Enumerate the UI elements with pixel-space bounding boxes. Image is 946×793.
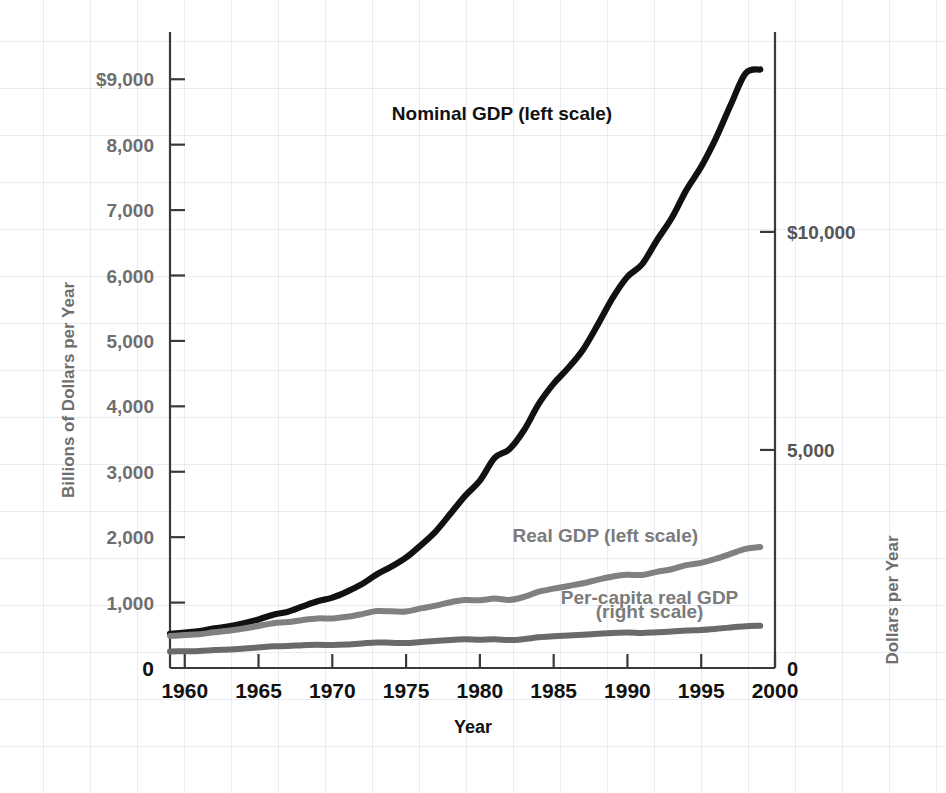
left-axis-title: Billions of Dollars per Year <box>59 282 78 498</box>
right-axis-tick-labels: 05,000$10,000 <box>787 222 856 680</box>
x-tick-label: 1975 <box>383 679 430 702</box>
right-axis-tick-marks <box>760 232 775 450</box>
x-tick-label: 1960 <box>161 679 208 702</box>
annotation-nominal-gdp: Nominal GDP (left scale) <box>392 103 612 124</box>
series-lines <box>170 69 760 651</box>
left-axis-tick-marks <box>170 79 185 602</box>
left-tick-label: 2,000 <box>106 527 154 548</box>
x-tick-label: 1980 <box>457 679 504 702</box>
annotation-per-capita-gdp-line2: (right scale) <box>596 601 704 622</box>
left-tick-label: 4,000 <box>106 396 154 417</box>
left-tick-label: 3,000 <box>106 462 154 483</box>
x-tick-label: 1970 <box>309 679 356 702</box>
left-tick-label: 6,000 <box>106 266 154 287</box>
annotation-real-gdp: Real GDP (left scale) <box>513 525 699 546</box>
x-tick-label: 1990 <box>604 679 651 702</box>
bottom-axis-title: Year <box>454 717 492 737</box>
left-axis-tick-labels: 01,0002,0003,0004,0005,0006,0007,0008,00… <box>96 69 154 680</box>
x-tick-label: 1965 <box>235 679 282 702</box>
series-annotations: Nominal GDP (left scale)Real GDP (left s… <box>392 103 739 622</box>
x-tick-label: 2000 <box>752 679 799 702</box>
left-tick-label: 1,000 <box>106 593 154 614</box>
x-axis-tick-labels: 196019651970197519801985199019952000 <box>161 679 798 702</box>
series-line-nominal-gdp <box>170 69 760 633</box>
x-tick-label: 1985 <box>530 679 577 702</box>
x-axis-tick-marks <box>185 654 775 668</box>
left-tick-label: 8,000 <box>106 135 154 156</box>
right-tick-label: 0 <box>787 658 798 680</box>
left-tick-label: 7,000 <box>106 200 154 221</box>
gdp-line-chart: 01,0002,0003,0004,0005,0006,0007,0008,00… <box>0 0 946 793</box>
series-line-per-capita-real-gdp <box>170 626 760 652</box>
left-tick-label: $9,000 <box>96 69 154 90</box>
left-tick-label: 5,000 <box>106 331 154 352</box>
right-tick-label: 5,000 <box>787 440 835 461</box>
right-tick-label: $10,000 <box>787 222 856 243</box>
right-axis-title: Dollars per Year <box>883 535 902 665</box>
chart-canvas: 01,0002,0003,0004,0005,0006,0007,0008,00… <box>0 0 946 793</box>
left-tick-label: 0 <box>142 657 154 680</box>
x-tick-label: 1995 <box>678 679 725 702</box>
